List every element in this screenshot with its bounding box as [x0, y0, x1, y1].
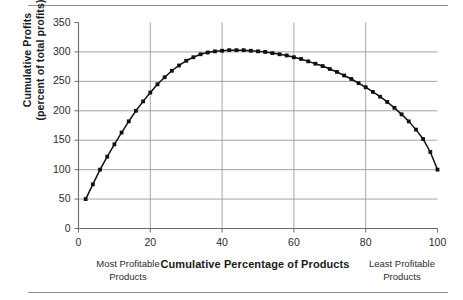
- annotation-least-profitable-line2: Products: [352, 271, 452, 284]
- x-tick-label: 40: [205, 236, 239, 248]
- y-tick-label: 200: [37, 104, 71, 116]
- annotation-least-profitable-line1: Least Profitable: [352, 258, 452, 271]
- y-tick-label: 50: [37, 192, 71, 204]
- data-markers: [84, 48, 440, 201]
- y-tick-label: 150: [37, 133, 71, 145]
- y-tick-label: 100: [37, 163, 71, 175]
- data-line: [86, 50, 438, 199]
- x-tick-label: 80: [349, 236, 383, 248]
- axis-lines: [79, 23, 438, 229]
- tick-marks: [75, 23, 438, 233]
- y-tick-label: 350: [37, 16, 71, 28]
- figure-container: Cumulative Profits (percent of total pro…: [0, 0, 463, 300]
- x-tick-label: 100: [421, 236, 455, 248]
- annotation-most-profitable-line2: Products: [78, 271, 178, 284]
- x-tick-label: 60: [277, 236, 311, 248]
- x-tick-label: 20: [133, 236, 167, 248]
- gridlines: [79, 23, 438, 229]
- annotation-most-profitable: Most Profitable Products: [78, 258, 178, 283]
- annotation-least-profitable: Least Profitable Products: [352, 258, 452, 283]
- y-tick-label: 0: [37, 222, 71, 234]
- annotation-most-profitable-line1: Most Profitable: [78, 258, 178, 271]
- x-tick-label: 0: [62, 236, 96, 248]
- y-tick-label: 300: [37, 45, 71, 57]
- y-tick-label: 250: [37, 74, 71, 86]
